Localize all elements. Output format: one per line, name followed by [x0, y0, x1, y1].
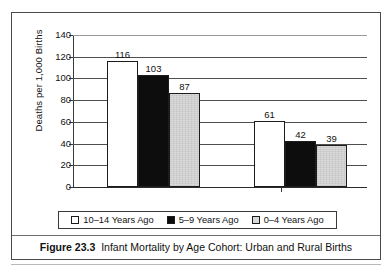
plot-area: 140 120 100 80 60 40 20 0 116 103 87 61 [73, 35, 367, 187]
legend-label-5-9-years-ago: 5–9 Years Ago [179, 215, 239, 225]
caption-divider [12, 235, 380, 236]
legend-swatch-gray-square-icon [252, 216, 260, 224]
legend-label-0-4-years-ago: 0–4 Years Ago [264, 215, 324, 225]
x-axis-center-tick [281, 187, 282, 192]
y-tick-label-100: 100 [31, 72, 71, 83]
y-axis-spine [73, 35, 74, 187]
bar-urban-10-14-years-ago[interactable]: 61 [254, 121, 285, 187]
figure-caption-text: Infant Mortality by Age Cohort: Urban an… [101, 241, 352, 253]
bar-value-rural-5-9: 103 [146, 63, 162, 74]
axis-baseline [73, 187, 367, 188]
legend-swatch-black-square-icon [167, 216, 175, 224]
legend-label-10-14-years-ago: 10–14 Years Ago [83, 215, 153, 225]
bar-rural-10-14-years-ago[interactable]: 116 [107, 61, 138, 187]
legend-swatch-white-square-icon [71, 216, 79, 224]
y-tick-label-0: 0 [31, 181, 71, 192]
figure-frame: Deaths per 1,000 Births 140 120 100 80 [11, 12, 381, 260]
bar-rural-0-4-years-ago[interactable]: 87 [169, 93, 200, 188]
y-tick-label-20: 20 [31, 159, 71, 170]
bar-value-rural-0-4: 87 [179, 81, 190, 92]
legend-item-0-4-years-ago[interactable]: 0–4 Years Ago [252, 215, 324, 225]
figure-caption-number: Figure 23.3 [40, 241, 95, 253]
y-tick-label-60: 60 [31, 116, 71, 127]
legend-item-5-9-years-ago[interactable]: 5–9 Years Ago [167, 215, 239, 225]
figure-caption: Figure 23.3 Infant Mortality by Age Coho… [12, 241, 380, 253]
y-tick-label-140: 140 [31, 29, 71, 40]
y-tick-label-40: 40 [31, 138, 71, 149]
bar-value-rural-10-14: 116 [115, 49, 130, 60]
bar-value-urban-5-9: 42 [295, 129, 306, 140]
bar-urban-0-4-years-ago[interactable]: 39 [316, 145, 347, 187]
legend-item-10-14-years-ago[interactable]: 10–14 Years Ago [71, 215, 153, 225]
bar-value-urban-0-4: 39 [326, 133, 337, 144]
bar-urban-5-9-years-ago[interactable]: 42 [285, 141, 316, 187]
y-tick-label-80: 80 [31, 94, 71, 105]
page-bottom-rule [11, 264, 381, 265]
bar-rural-5-9-years-ago[interactable]: 103 [138, 75, 169, 187]
chart-area: Deaths per 1,000 Births 140 120 100 80 [12, 13, 382, 201]
gridline-140 [73, 35, 367, 36]
y-tick-label-120: 120 [31, 51, 71, 62]
chart-legend: 10–14 Years Ago 5–9 Years Ago 0–4 Years … [58, 211, 337, 229]
bar-value-urban-10-14: 61 [264, 109, 275, 120]
